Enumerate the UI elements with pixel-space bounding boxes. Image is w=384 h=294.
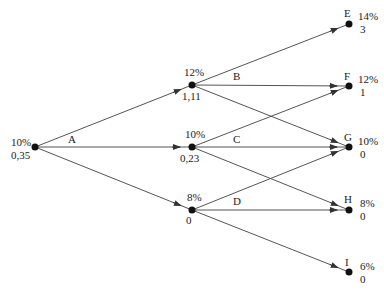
node-m-rate: 10% — [185, 128, 205, 140]
branch-label-b: B — [233, 70, 240, 82]
root-rate: 10% — [11, 136, 31, 148]
arrowhead-u-G — [330, 139, 338, 142]
node-H — [346, 207, 353, 214]
node-I — [346, 269, 353, 276]
node-d-rate: 8% — [187, 191, 202, 203]
arrowhead-root-d — [173, 202, 181, 205]
node-h-name: H — [344, 193, 352, 205]
arrowhead-m-H — [330, 202, 338, 205]
node-i-name: I — [345, 256, 349, 268]
node-u-rate: 12% — [184, 66, 204, 78]
arrowhead-u-E — [330, 28, 338, 31]
tree-diagram: A B C D 10% 0,35 12% 1,11 10% 0,23 8% 0 … — [0, 0, 384, 294]
node-i-rate: 6% — [360, 260, 375, 272]
edge-u-F — [192, 85, 349, 86]
node-u-value: 1,11 — [182, 90, 201, 102]
edge-u-E — [192, 24, 349, 85]
branch-label-a: A — [68, 133, 76, 145]
edge-d-I — [192, 210, 349, 272]
node-e-rate: 14% — [358, 10, 378, 22]
node-e-name: E — [344, 7, 351, 19]
arrowhead-d-I — [330, 264, 338, 267]
node-f-name: F — [344, 70, 350, 82]
node-root — [32, 144, 39, 151]
node-g-rate: 10% — [358, 135, 378, 147]
branch-label-c: C — [233, 133, 240, 145]
node-d-value: 0 — [186, 214, 192, 226]
arrowhead-d-G — [330, 151, 338, 154]
node-i-value: 0 — [360, 273, 366, 285]
node-u — [189, 82, 196, 89]
node-f-rate: 12% — [358, 73, 378, 85]
node-h-value: 0 — [360, 210, 366, 222]
node-h-rate: 8% — [360, 197, 375, 209]
arrowhead-m-F — [330, 90, 338, 93]
node-F — [346, 83, 353, 90]
node-m — [189, 144, 196, 151]
branch-label-d: D — [233, 195, 241, 207]
node-f-value: 1 — [360, 86, 366, 98]
node-E — [346, 21, 353, 28]
root-value: 0,35 — [11, 149, 31, 161]
edge-root-d — [35, 147, 192, 210]
node-g-name: G — [344, 131, 352, 143]
arrowhead-root-u — [173, 89, 181, 92]
node-G — [346, 144, 353, 151]
node-d — [189, 207, 196, 214]
node-m-value: 0,23 — [180, 152, 200, 164]
edge-root-u — [35, 85, 192, 147]
node-g-value: 0 — [360, 148, 366, 160]
node-e-value: 3 — [360, 23, 366, 35]
